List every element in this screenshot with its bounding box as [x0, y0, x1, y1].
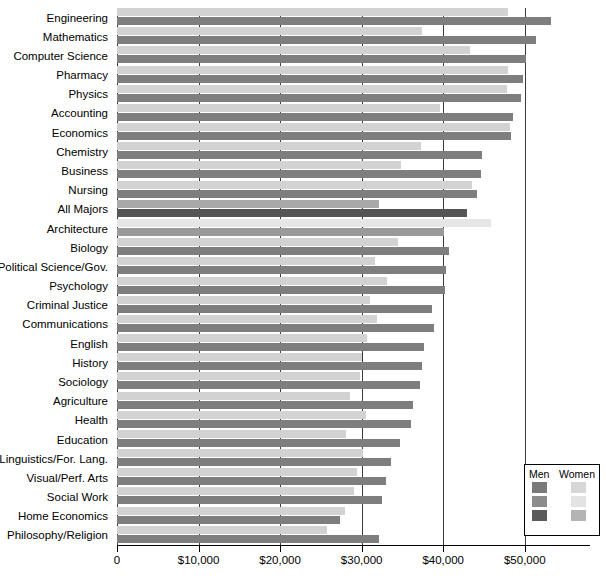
- x-tick: [280, 545, 281, 552]
- x-axis-line: [117, 545, 590, 546]
- legend-headers: Men Women: [529, 468, 595, 480]
- plot-area: [117, 8, 590, 545]
- legend-swatch-women: [571, 510, 586, 521]
- bar-men: [117, 420, 411, 428]
- bar-row: [117, 66, 590, 85]
- bar-women: [117, 104, 440, 112]
- bar-men: [117, 36, 536, 44]
- bar-men: [117, 381, 420, 389]
- bar-row: [117, 449, 590, 468]
- bar-row: [117, 430, 590, 449]
- chart-legend: Men Women: [524, 464, 600, 536]
- bar-women: [117, 257, 375, 265]
- bar-women: [117, 238, 398, 246]
- legend-swatch-women: [571, 496, 586, 507]
- bar-women: [117, 200, 379, 208]
- category-label: Education: [57, 434, 108, 446]
- bar-row: [117, 200, 590, 219]
- horizontal-bar-chart: EngineeringMathematicsComputer SciencePh…: [0, 0, 606, 580]
- category-label: Mathematics: [43, 31, 108, 43]
- legend-swatch-men: [532, 510, 547, 521]
- bar-men: [117, 477, 386, 485]
- category-label: Linguistics/For. Lang.: [0, 453, 108, 465]
- category-label: Social Work: [47, 491, 108, 503]
- bar-men: [117, 247, 449, 255]
- bar-women: [117, 487, 354, 495]
- category-label: Physics: [68, 88, 108, 100]
- bar-men: [117, 362, 422, 370]
- bar-women: [117, 296, 370, 304]
- bar-row: [117, 161, 590, 180]
- category-label: English: [70, 338, 108, 350]
- category-label: Engineering: [47, 12, 108, 24]
- bar-women: [117, 353, 362, 361]
- bar-men: [117, 324, 434, 332]
- legend-swatch-men: [532, 482, 547, 493]
- x-tick-label: $40,000: [422, 554, 464, 566]
- category-label: Biology: [70, 242, 108, 254]
- bar-men: [117, 190, 477, 198]
- bar-men: [117, 266, 446, 274]
- legend-row: [529, 482, 595, 493]
- category-label: Criminal Justice: [27, 299, 108, 311]
- bar-women: [117, 46, 470, 54]
- bar-women: [117, 181, 472, 189]
- bar-women: [117, 161, 401, 169]
- category-label: Economics: [52, 127, 108, 139]
- bar-row: [117, 296, 590, 315]
- bar-women: [117, 315, 377, 323]
- category-label: Accounting: [51, 107, 108, 119]
- legend-swatch-women: [571, 482, 586, 493]
- bar-women: [117, 66, 508, 74]
- bar-women: [117, 277, 387, 285]
- category-label: Chemistry: [56, 146, 108, 158]
- bar-women: [117, 142, 421, 150]
- x-tick: [443, 545, 444, 552]
- category-label: Pharmacy: [56, 69, 108, 81]
- x-tick-label: 0: [114, 554, 120, 566]
- bar-men: [117, 151, 482, 159]
- legend-women-label: Women: [559, 468, 595, 480]
- bar-row: [117, 123, 590, 142]
- bar-men: [117, 17, 551, 25]
- bar-men: [117, 535, 379, 543]
- bar-row: [117, 8, 590, 27]
- category-label: Architecture: [47, 223, 108, 235]
- bar-men: [117, 132, 511, 140]
- category-label: Communications: [22, 318, 108, 330]
- x-tick-label: $50,000: [504, 554, 546, 566]
- bar-men: [117, 170, 481, 178]
- bar-row: [117, 181, 590, 200]
- bar-women: [117, 507, 345, 515]
- bar-women: [117, 334, 367, 342]
- bar-women: [117, 468, 357, 476]
- category-label: All Majors: [58, 203, 108, 215]
- bar-men: [117, 94, 521, 102]
- x-tick: [362, 545, 363, 552]
- bar-row: [117, 219, 590, 238]
- category-label: Sociology: [58, 376, 108, 388]
- bar-women: [117, 27, 422, 35]
- category-label: History: [72, 357, 108, 369]
- legend-men-label: Men: [529, 468, 549, 480]
- x-tick: [199, 545, 200, 552]
- bar-row: [117, 27, 590, 46]
- category-label: Health: [75, 414, 108, 426]
- bar-row: [117, 334, 590, 353]
- bar-women: [117, 219, 491, 227]
- bar-women: [117, 372, 360, 380]
- bar-row: [117, 487, 590, 506]
- bar-row: [117, 142, 590, 161]
- bar-women: [117, 123, 510, 131]
- category-label: Philosophy/Religion: [7, 529, 108, 541]
- bar-row: [117, 468, 590, 487]
- bar-men: [117, 113, 513, 121]
- bar-women: [117, 430, 346, 438]
- bar-row: [117, 85, 590, 104]
- bar-women: [117, 449, 363, 457]
- x-tick: [117, 545, 118, 552]
- bar-men: [117, 55, 526, 63]
- bar-women: [117, 392, 350, 400]
- legend-swatch-men: [532, 496, 547, 507]
- bar-row: [117, 372, 590, 391]
